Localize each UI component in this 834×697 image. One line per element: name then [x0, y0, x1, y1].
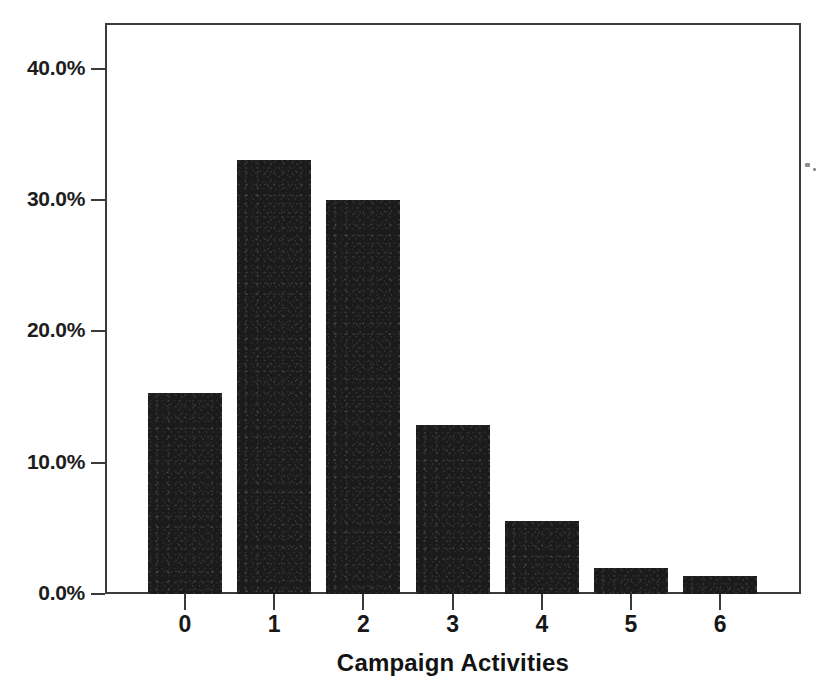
x-axis-tick-label: 5	[609, 611, 653, 638]
bar-4	[505, 521, 579, 595]
x-axis-tick-mark	[541, 594, 543, 610]
x-axis-tick-label: 3	[431, 611, 475, 638]
y-axis-tick-label: 20.0%	[27, 318, 85, 342]
bar-6	[683, 576, 757, 594]
x-axis: Campaign Activities 0123456	[0, 594, 834, 697]
bar-2	[326, 200, 400, 594]
y-axis-tick-mark	[91, 68, 105, 70]
y-axis-tick-label: 30.0%	[27, 187, 85, 211]
bar-1	[237, 160, 311, 594]
y-axis-tick-label: 40.0%	[27, 56, 85, 80]
x-axis-tick-label: 4	[520, 611, 564, 638]
scan-artifact-speck	[813, 168, 816, 171]
x-axis-tick-mark	[719, 594, 721, 610]
x-axis-tick-label: 6	[698, 611, 742, 638]
bar-chart-figure: 40.0%30.0%20.0%10.0%0.0% Campaign Activi…	[0, 0, 834, 697]
x-axis-tick-label: 0	[163, 611, 207, 638]
x-axis-title: Campaign Activities	[105, 649, 801, 677]
x-axis-tick-label: 2	[341, 611, 385, 638]
bar-5	[594, 568, 668, 594]
bars-layer	[105, 23, 801, 594]
x-axis-tick-mark	[630, 594, 632, 610]
x-axis-tick-label: 1	[252, 611, 296, 638]
x-axis-tick-mark	[273, 594, 275, 610]
y-axis: 40.0%30.0%20.0%10.0%0.0%	[0, 0, 105, 697]
bar-3	[416, 425, 490, 594]
bar-0	[148, 393, 222, 594]
y-axis-tick-mark	[91, 462, 105, 464]
y-axis-tick-mark	[91, 330, 105, 332]
y-axis-tick-label: 10.0%	[27, 450, 85, 474]
x-axis-tick-mark	[184, 594, 186, 610]
y-axis-tick-mark	[91, 199, 105, 201]
scan-artifact-speck	[805, 163, 810, 167]
x-axis-tick-mark	[362, 594, 364, 610]
x-axis-tick-mark	[452, 594, 454, 610]
